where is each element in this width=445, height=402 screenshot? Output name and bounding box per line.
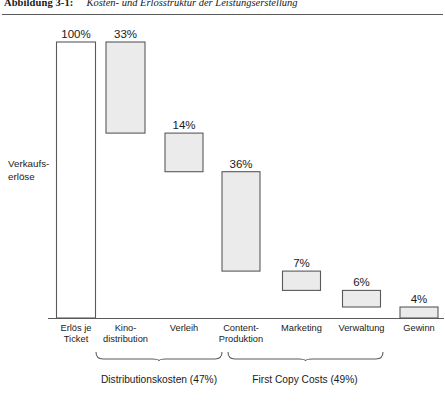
category-label-3-line1: Verleih [170, 323, 198, 333]
category-labels: Erlös jeTicketKino-distributionVerleihCo… [60, 323, 434, 344]
bar-value-6: 6% [353, 276, 370, 288]
bracket-label-distribution: Distributionskosten (47%) [101, 374, 217, 385]
bars-group [57, 42, 439, 318]
bar-value-3: 14% [172, 119, 195, 131]
bracket-label-firstcopy: First Copy Costs (49%) [252, 374, 357, 385]
category-label-2-line2: distribution [103, 334, 148, 344]
bar-gewinn [400, 307, 438, 318]
bar-content-produktion [222, 172, 260, 271]
bar-kino-distribution [106, 42, 145, 133]
category-label-2-line1: Kino- [115, 323, 137, 333]
bar-value-1: 100% [61, 28, 90, 40]
bar-value-7: 4% [411, 293, 428, 305]
category-label-7-line1: Gewinn [403, 323, 435, 333]
bar-verleih [165, 133, 203, 172]
y-axis-label-line2: erlöse [8, 171, 35, 182]
bar-erl-s-je-ticket [57, 42, 96, 318]
category-label-4-line2: Produktion [219, 334, 263, 344]
waterfall-chart: 100%33%14%36%7%6%4% Erlös jeTicketKino-d… [0, 0, 445, 402]
group-brackets [96, 352, 383, 361]
category-label-5-line1: Marketing [281, 323, 322, 333]
bracket-distribution [96, 352, 222, 361]
bar-verwaltung [343, 290, 381, 307]
chart-svg: 100%33%14%36%7%6%4% Erlös jeTicketKino-d… [0, 0, 445, 402]
bar-value-4: 36% [229, 158, 252, 170]
category-label-6-line1: Verwaltung [339, 323, 385, 333]
bar-marketing [283, 271, 321, 290]
y-axis-label-line1: Verkaufs- [8, 158, 49, 169]
bar-value-2: 33% [114, 28, 137, 40]
bracket-first-copy-costs [228, 352, 383, 361]
category-label-4-line1: Content- [223, 323, 259, 333]
category-label-1-line2: Ticket [64, 334, 89, 344]
bar-value-5: 7% [293, 257, 310, 269]
category-label-1-line1: Erlös je [60, 323, 91, 333]
